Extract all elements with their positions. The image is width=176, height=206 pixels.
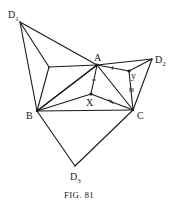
label-B: B	[26, 110, 33, 121]
label-D1: D1	[8, 9, 19, 23]
geometry-figure: D1 A D2 y X B C D3 FIG. 81	[0, 0, 176, 206]
figure-caption: FIG. 81	[64, 190, 94, 200]
edge-D3-C	[75, 110, 133, 166]
label-D3: D3	[70, 171, 81, 185]
edge-D1-A	[20, 22, 97, 65]
tick-AY	[112, 66, 113, 70]
point-C	[132, 109, 134, 111]
label-Y: y	[131, 70, 136, 81]
label-C: C	[137, 110, 144, 121]
label-X: X	[86, 97, 94, 108]
edge-A-D2	[97, 59, 152, 65]
point-A	[95, 63, 98, 66]
edge-X-B	[37, 94, 91, 111]
edge-F1-B	[37, 67, 49, 111]
point-X	[89, 92, 92, 95]
edge-A-Y	[97, 65, 129, 71]
label-A: A	[94, 52, 102, 63]
edge-D2-C	[133, 59, 152, 110]
edge-B-D3	[37, 111, 75, 166]
edge-F1-A	[49, 65, 97, 67]
point-B	[36, 110, 38, 112]
edge-BC	[37, 110, 133, 111]
label-D2: D2	[155, 54, 166, 68]
